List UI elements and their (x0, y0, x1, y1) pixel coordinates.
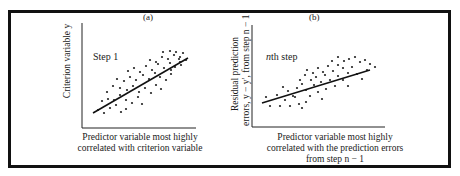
data-point (159, 76, 161, 78)
data-point (144, 87, 146, 89)
data-point (298, 103, 300, 105)
data-point (179, 56, 181, 58)
panel-b-x-axis-label-line3: from step n − 1 (250, 154, 420, 165)
data-point (292, 95, 294, 97)
data-point (369, 63, 371, 65)
panel-a-x-axis-label-line2: correlated with criterion variable (70, 143, 210, 154)
data-point (347, 72, 349, 74)
data-point (334, 85, 336, 87)
data-point (149, 59, 151, 61)
data-point (138, 91, 140, 93)
panel-a-label: (a) (143, 12, 153, 22)
data-point (322, 71, 324, 73)
data-point (175, 51, 177, 53)
data-point (279, 105, 281, 107)
data-point (173, 54, 175, 56)
data-point (178, 58, 180, 60)
panel-b-y-axis-label-line2: errors, y − y′, from step n − 1 (241, 22, 252, 126)
data-point (351, 66, 353, 68)
data-point (337, 56, 339, 58)
data-point (154, 72, 156, 74)
data-point (165, 79, 167, 81)
data-point (119, 87, 121, 89)
data-point (337, 64, 339, 66)
data-point (374, 66, 376, 68)
data-point (309, 95, 311, 97)
data-point (141, 103, 143, 105)
data-point (129, 76, 131, 78)
data-point (269, 105, 271, 107)
data-point (127, 70, 129, 72)
data-point (317, 91, 319, 93)
data-point (276, 94, 278, 96)
data-point (329, 79, 331, 81)
data-point (265, 96, 267, 98)
data-point (332, 70, 334, 72)
data-point (182, 52, 184, 54)
data-point (132, 85, 134, 87)
data-point (321, 98, 323, 100)
data-point (324, 74, 326, 76)
data-point (315, 76, 317, 78)
data-point (287, 90, 289, 92)
data-point (101, 100, 103, 102)
panel-a-x-axis-label-line1: Predictor variable most highly (70, 132, 210, 143)
data-point (123, 80, 125, 82)
data-point (305, 101, 307, 103)
panel-b-label: (b) (309, 12, 320, 22)
data-point (116, 78, 118, 80)
data-point (155, 61, 157, 63)
data-point (170, 69, 172, 71)
data-point (347, 85, 349, 87)
data-point (125, 99, 127, 101)
data-point (139, 71, 141, 73)
data-point (126, 89, 128, 91)
panel-b-step-label: nth step (266, 51, 297, 62)
panel-a-regression-line (93, 58, 188, 113)
data-point (310, 79, 312, 81)
data-point (354, 56, 356, 58)
data-point (103, 112, 105, 114)
panel-b-regression-line (262, 70, 370, 103)
data-point (145, 65, 147, 67)
panel-b-points (265, 56, 376, 109)
data-point (312, 72, 314, 74)
data-point (361, 78, 363, 80)
panel-b-x-axis-label-line2: correlated with the prediction errors (250, 143, 420, 154)
data-point (112, 85, 114, 87)
data-point (359, 61, 361, 63)
data-point (284, 99, 286, 101)
data-point (301, 107, 303, 109)
data-point (320, 81, 322, 83)
data-point (348, 58, 350, 60)
data-point (180, 64, 182, 66)
data-point (131, 102, 133, 104)
data-point (142, 74, 144, 76)
data-point (325, 88, 327, 90)
data-point (313, 84, 315, 86)
panel-b-axes (252, 25, 385, 127)
data-point (301, 83, 303, 85)
data-point (160, 88, 162, 90)
data-point (133, 67, 135, 69)
data-point (169, 50, 171, 52)
data-point (294, 96, 296, 98)
data-point (120, 111, 122, 113)
panel-b-x-axis-label: Predictor variable most highly correlate… (250, 132, 420, 165)
data-point (109, 107, 111, 109)
data-point (327, 65, 329, 67)
data-point (364, 59, 366, 61)
panel-b-y-axis-label-line1: Residual prediction (230, 22, 241, 126)
panel-a-x-axis-label: Predictor variable most highly correlate… (70, 132, 210, 154)
data-point (162, 51, 164, 53)
data-point (163, 67, 165, 69)
data-point (296, 87, 298, 89)
data-point (157, 63, 159, 65)
data-point (137, 96, 139, 98)
data-point (155, 84, 157, 86)
panel-b-x-axis-label-line1: Predictor variable most highly (250, 132, 420, 143)
data-point (135, 79, 137, 81)
data-point (119, 94, 121, 96)
data-point (317, 67, 319, 69)
panel-a-axes (82, 23, 196, 128)
